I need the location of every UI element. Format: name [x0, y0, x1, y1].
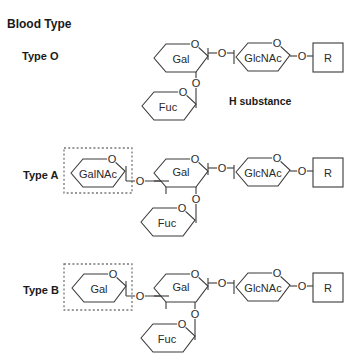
blood-type-diagram: Blood Type Type O O O O O Gal: [0, 0, 355, 364]
linkage-oxygen: O: [191, 308, 200, 320]
r-label: R: [324, 167, 332, 179]
gal-glcnac-linkage: O: [208, 162, 234, 179]
linkage-oxygen: O: [218, 162, 227, 174]
type-b-label: Type B: [23, 284, 59, 296]
terminal-gal-label: Gal: [90, 283, 107, 295]
type-b-structure: Type B O O O O O: [23, 264, 343, 352]
gal-label: Gal: [172, 281, 189, 293]
fuc-label: Fuc: [159, 101, 178, 113]
linkage-oxygen: O: [136, 290, 145, 302]
linkage-oxygen: O: [218, 277, 227, 289]
glcnac-ring: O GlcNAc: [236, 267, 290, 301]
ring-oxygen: O: [273, 152, 282, 164]
gal-label: Gal: [172, 53, 189, 65]
linkage-oxygen: O: [298, 50, 307, 62]
fuc-ring: O Fuc: [141, 318, 195, 352]
fuc-ring: O Fuc: [141, 202, 195, 236]
glcnac-label: GlcNAc: [244, 167, 282, 179]
ring-oxygen: O: [191, 153, 200, 165]
ring-oxygen: O: [178, 202, 187, 214]
galnac-label: GalNAc: [79, 168, 117, 180]
linkage-oxygen: O: [218, 47, 227, 59]
glcnac-r-linkage: O: [290, 50, 313, 62]
ring-oxygen: O: [178, 318, 187, 330]
ring-oxygen: O: [273, 37, 282, 49]
type-o-structure: Type O O O O O Gal: [22, 37, 343, 120]
linkage-oxygen: O: [192, 77, 201, 89]
ring-oxygen: O: [179, 86, 188, 98]
h-substance-annotation: H substance: [229, 95, 292, 107]
ring-oxygen: O: [109, 268, 118, 280]
galnac-ring: O GalNAc: [71, 153, 125, 187]
glcnac-r-linkage: O: [290, 165, 313, 177]
gal-glcnac-linkage: O: [208, 47, 234, 64]
gal-ring: O Gal: [154, 268, 208, 302]
aglycone-r-box: R: [313, 158, 343, 187]
aglycone-r-box: R: [313, 43, 343, 72]
fuc-label: Fuc: [158, 333, 177, 345]
fuc-label: Fuc: [158, 217, 177, 229]
type-a-label: Type A: [23, 169, 59, 181]
ring-oxygen: O: [191, 38, 200, 50]
r-label: R: [324, 52, 332, 64]
fuc-ring: O Fuc: [142, 86, 196, 120]
type-o-label: Type O: [22, 50, 59, 62]
glcnac-label: GlcNAc: [244, 52, 282, 64]
terminal-gal-ring: O Gal: [72, 268, 126, 302]
glcnac-ring: O GlcNAc: [236, 152, 290, 186]
diagram-title: Blood Type: [7, 17, 72, 31]
ring-oxygen: O: [273, 267, 282, 279]
linkage-oxygen: O: [298, 280, 307, 292]
gal-ring: O Gal: [154, 38, 208, 72]
gal-ring: O Gal: [154, 153, 208, 187]
ring-oxygen: O: [108, 153, 117, 165]
glcnac-r-linkage: O: [290, 280, 313, 292]
linkage-oxygen: O: [136, 175, 145, 187]
linkage-oxygen: O: [192, 193, 201, 205]
glcnac-ring: O GlcNAc: [236, 37, 290, 71]
ring-oxygen: O: [191, 268, 200, 280]
glcnac-label: GlcNAc: [244, 282, 282, 294]
aglycone-r-box: R: [313, 273, 343, 302]
linkage-oxygen: O: [298, 165, 307, 177]
r-label: R: [324, 282, 332, 294]
gal-label: Gal: [172, 166, 189, 178]
gal-glcnac-linkage: O: [208, 277, 234, 294]
type-a-structure: Type A O O O O: [23, 148, 343, 236]
